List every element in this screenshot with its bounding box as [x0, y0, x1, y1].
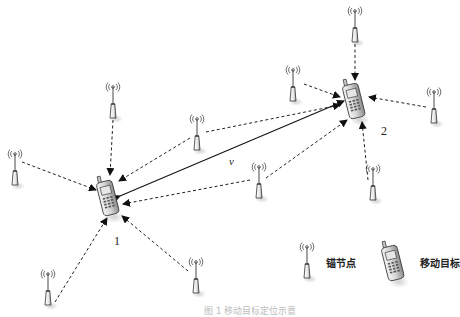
legend-target-label: 移动目标: [420, 255, 460, 270]
target-1-label: 1: [114, 234, 120, 249]
links-to-target-1: [22, 120, 250, 302]
velocity-label: v: [229, 155, 234, 167]
figure-caption: 图 1 移动目标定位示意: [150, 304, 350, 317]
target-2-label: 2: [381, 124, 387, 139]
velocity-line: [120, 101, 344, 196]
legend-anchor-label: 锚节点: [326, 255, 356, 270]
anchor-nodes: [8, 7, 444, 311]
links-to-target-2: [206, 44, 426, 180]
mobile-targets: [96, 79, 370, 223]
